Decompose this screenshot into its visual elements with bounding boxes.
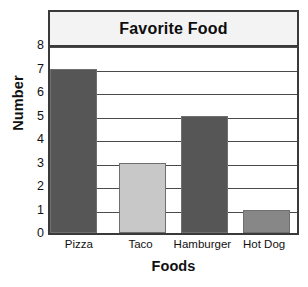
x-axis-tick-label: Taco	[110, 237, 172, 251]
y-axis-tick-label: 7	[24, 63, 44, 75]
chart-title: Favorite Food	[119, 20, 227, 38]
y-axis-tick-label: 2	[24, 180, 44, 192]
y-axis-tick-label: 1	[24, 204, 44, 216]
bars-group	[50, 47, 297, 233]
x-axis-title: Foods	[48, 258, 299, 274]
plot-area: Favorite Food	[48, 10, 299, 235]
y-axis-tick-label: 3	[24, 157, 44, 169]
bar	[50, 69, 97, 234]
y-axis-tick-label: 4	[24, 133, 44, 145]
bar	[181, 116, 228, 234]
x-axis-tick-labels: PizzaTacoHamburgerHot Dog	[48, 237, 299, 253]
bar	[243, 210, 290, 234]
x-axis-tick-label: Hamburger	[172, 237, 234, 251]
y-axis-tick-label: 6	[24, 86, 44, 98]
plot-inner-region	[50, 47, 297, 233]
chart-title-band: Favorite Food	[50, 12, 297, 47]
bar	[119, 163, 166, 234]
x-axis-tick-label: Hot Dog	[233, 237, 295, 251]
y-axis-tick-label: 8	[24, 39, 44, 51]
bar-chart: Number 876543210 Favorite Food PizzaTaco…	[0, 0, 308, 287]
y-axis-tick-label: 0	[24, 227, 44, 239]
y-axis-tick-labels: 876543210	[24, 45, 44, 235]
x-axis-tick-label: Pizza	[48, 237, 110, 251]
y-axis-tick-label: 5	[24, 110, 44, 122]
